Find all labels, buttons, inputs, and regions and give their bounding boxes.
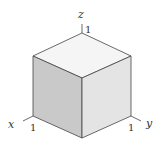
z-axis-label: z — [77, 8, 84, 21]
x-axis-line — [23, 116, 33, 121]
y-tick-label: 1 — [128, 122, 134, 133]
x-tick-label: 1 — [30, 122, 36, 133]
cube-svg: z 1 x 1 y 1 — [0, 0, 162, 148]
z-tick-label: 1 — [85, 24, 91, 35]
x-axis-label: x — [8, 118, 15, 131]
cube-diagram: z 1 x 1 y 1 — [0, 0, 162, 148]
y-axis-line — [131, 116, 141, 121]
y-axis-label: y — [145, 117, 153, 130]
